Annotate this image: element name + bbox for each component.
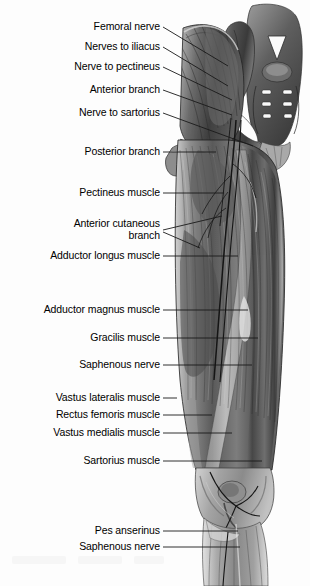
label-nerves-to-iliacus: Nerves to iliacus <box>85 41 160 53</box>
label-saphenous-nerve-leg: Saphenous nerve <box>79 541 160 553</box>
label-pes-anserinus: Pes anserinus <box>95 525 160 537</box>
label-sartorius-muscle: Sartorius muscle <box>83 455 160 467</box>
label-vastus-lateralis-muscle: Vastus lateralis muscle <box>56 392 160 404</box>
label-vastus-medialis-muscle: Vastus medialis muscle <box>53 427 160 439</box>
leg-group <box>203 518 269 586</box>
label-adductor-longus-muscle: Adductor longus muscle <box>50 250 160 262</box>
label-pectineus-muscle: Pectineus muscle <box>79 187 160 199</box>
label-nerve-to-sartorius: Nerve to sartorius <box>79 107 160 119</box>
label-nerve-to-pectineus: Nerve to pectineus <box>74 61 160 73</box>
label-rectus-femoris-muscle: Rectus femoris muscle <box>56 409 160 421</box>
anatomy-figure: Femoral nerveNerves to iliacusNerve to p… <box>0 0 310 586</box>
label-posterior-branch: Posterior branch <box>85 146 160 158</box>
thigh-group <box>175 118 285 470</box>
label-anterior-cutaneous-branch: Anterior cutaneousbranch <box>74 218 160 241</box>
label-femoral-nerve: Femoral nerve <box>94 21 160 33</box>
label-adductor-magnus-muscle: Adductor magnus muscle <box>44 304 160 316</box>
label-gracilis-muscle: Gracilis muscle <box>90 332 160 344</box>
page-texture <box>12 556 164 564</box>
label-anterior-branch: Anterior branch <box>90 84 160 96</box>
label-saphenous-nerve-thigh: Saphenous nerve <box>79 359 160 371</box>
